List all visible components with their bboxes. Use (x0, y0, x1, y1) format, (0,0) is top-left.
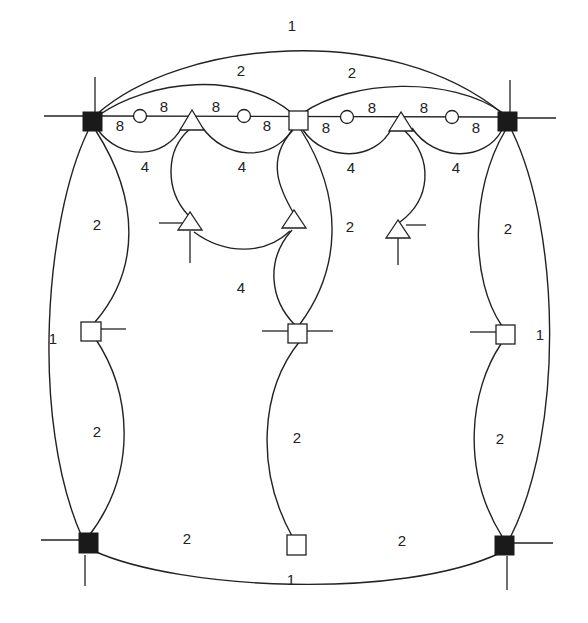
node-circle-2 (238, 110, 251, 123)
node-triangle-mid-1 (178, 212, 202, 230)
edge-t1-t3 (171, 129, 190, 215)
edge-t4-mm (274, 230, 295, 325)
edge-t2-t5 (400, 130, 425, 222)
label-2: 2 (93, 423, 101, 440)
label-8: 8 (420, 99, 428, 116)
node-black-square-bottom-right (495, 536, 514, 555)
label-arc-top-left: 2 (237, 62, 245, 79)
edge-4-a (98, 127, 182, 152)
label-2: 2 (93, 216, 101, 233)
label-4: 4 (237, 279, 245, 296)
edge-outer-top (97, 51, 503, 114)
label-2: 2 (346, 218, 354, 235)
node-white-square-mid-right (496, 325, 515, 344)
node-triangle-mid-3 (386, 220, 410, 238)
label-2: 2 (398, 532, 406, 549)
graph-diagram: 1 2 2 8 8 8 8 8 8 8 8 4 4 4 4 2 2 2 4 1 … (0, 0, 588, 623)
label-8: 8 (322, 119, 330, 136)
node-circle-1 (134, 110, 147, 123)
node-black-square-top-right (498, 112, 517, 131)
node-triangle-top-2 (389, 112, 413, 131)
node-triangle-top-1 (180, 110, 204, 130)
edge-outer-bottom (94, 551, 500, 584)
label-8: 8 (368, 99, 376, 116)
edge-right-upper (478, 131, 505, 326)
node-circle-3 (341, 111, 354, 124)
label-8: 8 (212, 98, 220, 115)
label-outer-right: 1 (536, 326, 544, 343)
edge-4-b (202, 127, 292, 153)
label-2: 2 (496, 430, 504, 447)
node-white-square-mid-center (288, 324, 307, 343)
edge-labels: 1 2 2 8 8 8 8 8 8 8 8 4 4 4 4 2 2 2 4 1 … (49, 17, 544, 588)
label-4: 4 (452, 159, 460, 176)
node-white-square-top-middle (289, 111, 308, 130)
label-2: 2 (183, 530, 191, 547)
label-2: 2 (504, 220, 512, 237)
label-outer-left: 1 (49, 330, 57, 347)
label-8: 8 (160, 98, 168, 115)
label-outer-bottom: 1 (287, 571, 295, 588)
edge-t3-t4 (194, 231, 290, 249)
node-black-square-top-left (83, 112, 102, 131)
label-4: 4 (141, 158, 149, 175)
node-triangle-mid-2 (282, 210, 306, 228)
label-outer-top: 1 (288, 17, 296, 34)
node-black-square-bottom-left (79, 533, 98, 553)
label-arc-top-right: 2 (348, 64, 356, 81)
nodes (79, 110, 517, 556)
edge-top-left-2 (99, 85, 292, 115)
edge-top-right-2 (303, 86, 503, 113)
edge-4-d (412, 128, 502, 154)
node-white-square-bottom-middle (287, 535, 306, 555)
label-8: 8 (116, 117, 124, 134)
label-4: 4 (238, 158, 246, 175)
label-2: 2 (293, 429, 301, 446)
node-white-square-mid-left (81, 322, 101, 341)
edge-4-c (303, 128, 392, 154)
node-circle-4 (446, 111, 459, 124)
label-4: 4 (347, 159, 355, 176)
label-8: 8 (472, 119, 480, 136)
label-8: 8 (263, 117, 271, 134)
